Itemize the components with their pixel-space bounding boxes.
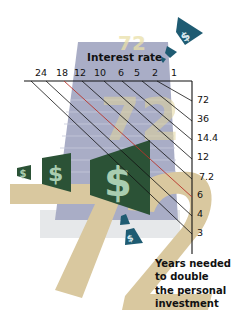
top-label-24: 24 bbox=[35, 67, 47, 78]
caption-line-1: Years needed bbox=[154, 258, 231, 269]
dollar-icon-small: $ bbox=[20, 168, 27, 179]
top-label-1: 1 bbox=[171, 67, 177, 78]
top-label-18: 18 bbox=[56, 67, 68, 78]
dollar-icon-large: $ bbox=[104, 159, 132, 205]
right-label-3: 3 bbox=[197, 227, 203, 238]
top-label-10: 10 bbox=[94, 67, 106, 78]
top-label-12: 12 bbox=[74, 67, 86, 78]
right-label-4: 4 bbox=[197, 208, 203, 219]
top-label-5: 5 bbox=[134, 67, 140, 78]
top-tick-labels: 24 18 12 10 6 5 2 1 bbox=[35, 67, 177, 78]
interest-rate-title: Interest rate bbox=[87, 51, 162, 63]
right-label-12: 12 bbox=[197, 151, 209, 162]
rule-of-72-chart: 72 72 $ $ $ $ $ Interest rate bbox=[0, 0, 241, 325]
dollar-icon-medium: $ bbox=[48, 161, 63, 186]
right-label-36: 36 bbox=[197, 113, 209, 124]
caption-line-2: to double bbox=[155, 271, 209, 282]
caption-line-4: investment bbox=[155, 298, 219, 309]
caption-line-3: the personal bbox=[155, 285, 226, 296]
right-label-6: 6 bbox=[197, 189, 203, 200]
top-label-2: 2 bbox=[152, 67, 158, 78]
years-caption: Years needed to double the personal inve… bbox=[154, 258, 231, 309]
top-label-6: 6 bbox=[118, 67, 124, 78]
right-label-7-2: 7.2 bbox=[199, 171, 214, 182]
right-label-72: 72 bbox=[197, 94, 209, 105]
right-label-14-4: 14.4 bbox=[197, 132, 218, 143]
